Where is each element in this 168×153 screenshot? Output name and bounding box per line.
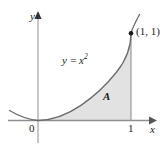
x-tick-label-one: 1 bbox=[128, 123, 134, 134]
region-label-A: A bbox=[103, 91, 110, 102]
shaded-region-A bbox=[38, 33, 131, 120]
x-axis-label: x bbox=[150, 124, 155, 135]
y-axis-label: y bbox=[30, 11, 35, 22]
figure-canvas bbox=[0, 0, 168, 153]
point-coordinate-label: (1, 1) bbox=[136, 26, 160, 37]
y-axis-arrowhead bbox=[34, 11, 41, 19]
curve-equation-label: y =x2 bbox=[62, 53, 88, 66]
origin-label: 0 bbox=[29, 123, 35, 134]
curve-equation-lhs: y = bbox=[62, 54, 77, 66]
curve-equation-exponent: 2 bbox=[84, 52, 88, 61]
point-marker-1-1 bbox=[129, 31, 134, 36]
figure-area-under-parabola: y x 0 1 y =x2 A (1, 1) bbox=[0, 0, 168, 153]
